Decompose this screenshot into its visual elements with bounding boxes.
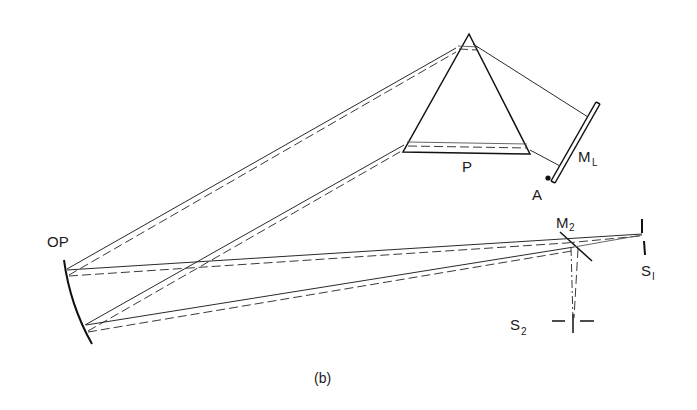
label-pivot-point: A [532, 186, 542, 203]
label-prism: P [462, 158, 472, 175]
label-littrow-mirror: M [578, 148, 591, 165]
littrow-mirror [551, 102, 600, 183]
label-mirror-m2-sub: 2 [569, 222, 575, 233]
label-slit-s2-sub: 2 [521, 326, 527, 337]
label-littrow-mirror-sub: L [592, 157, 598, 168]
figure-caption: (b) [314, 370, 331, 386]
label-op: OP [47, 233, 69, 250]
op-mirror [64, 260, 92, 344]
spectrometer-diagram: OP P M L A M 2 S I S 2 (b) [0, 0, 697, 410]
label-slit-s1: S [641, 262, 651, 279]
ray-paths [67, 44, 642, 332]
label-mirror-m2: M [556, 214, 569, 231]
slit-s1 [642, 219, 645, 255]
pivot-point [545, 175, 550, 180]
label-slit-s1-sub: I [652, 271, 655, 282]
label-slit-s2: S [510, 316, 520, 333]
prism [403, 34, 530, 154]
